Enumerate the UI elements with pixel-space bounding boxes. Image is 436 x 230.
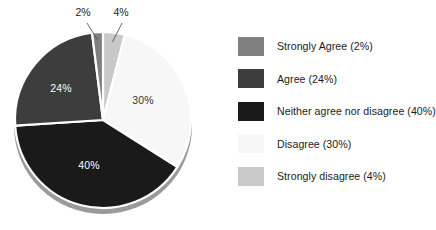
legend-item-label: Strongly disagree (4%) [277,170,386,182]
legend-item[interactable]: Disagree (30%) [238,128,432,161]
callout-strongly-agree: 2% [75,6,90,18]
chart-legend: Strongly Agree (2%)Agree (24%)Neither ag… [238,30,432,193]
legend-item-label: Agree (24%) [277,73,337,85]
pie-chart-plot-area: 30%40%24% 2%4% [0,0,216,230]
legend-swatch-icon [238,167,264,186]
slice-label-disagree: 30% [132,94,154,106]
slice-label-agree: 24% [50,82,72,94]
legend-item[interactable]: Strongly disagree (4%) [238,160,432,193]
slice-label-neither: 40% [78,159,100,171]
legend-item[interactable]: Neither agree nor disagree (40%) [238,95,432,128]
legend-item-label: Neither agree nor disagree (40%) [277,105,436,117]
pie-callout-labels: 2%4% [75,6,128,18]
legend-swatch-icon [238,37,264,56]
pie-slice-group [15,32,191,208]
legend-item[interactable]: Strongly Agree (2%) [238,30,432,63]
pie-chart-svg: 30%40%24% 2%4% [0,0,216,230]
legend-swatch-icon [238,102,264,121]
legend-swatch-icon [238,134,264,153]
legend-item[interactable]: Agree (24%) [238,63,432,96]
pie-slice-agree[interactable] [15,33,103,126]
legend-item-label: Strongly Agree (2%) [277,40,373,52]
legend-swatch-icon [238,69,264,88]
callout-strongly-disagree: 4% [113,6,128,18]
legend-item-label: Disagree (30%) [277,138,351,150]
